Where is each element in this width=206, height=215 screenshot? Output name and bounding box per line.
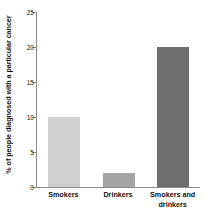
- y-axis-tick-label: 10: [27, 113, 34, 122]
- bar: [103, 173, 135, 187]
- bar: [157, 47, 189, 187]
- y-axis-title-text: % of people diagnosed with a particular …: [4, 16, 11, 174]
- bars-layer: [37, 12, 200, 187]
- y-axis-tick-label: 15: [27, 78, 34, 87]
- y-axis-tick-label: 20: [27, 43, 34, 52]
- x-axis-category-label: Smokers anddrinkers: [137, 190, 206, 209]
- x-axis-line: [36, 187, 200, 188]
- bar: [48, 117, 80, 187]
- x-axis-category-label-line: Smokers and: [137, 190, 206, 200]
- x-axis-category-label-line: drinkers: [137, 200, 206, 210]
- y-axis-tick-label: 5: [30, 148, 34, 157]
- y-axis-title: % of people diagnosed with a particular …: [0, 0, 16, 190]
- bar-chart-figure: % of people diagnosed with a particular …: [0, 0, 206, 215]
- x-axis-category-labels: SmokersDrinkersSmokers anddrinkers: [36, 190, 206, 215]
- y-axis-tick-label: 25: [27, 8, 34, 17]
- plot-area: 0510152025: [36, 12, 200, 188]
